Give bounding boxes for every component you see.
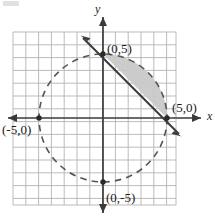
- point-label-top: (0,5): [107, 42, 132, 55]
- y-axis-label: y: [95, 3, 100, 15]
- point-5-0: [164, 115, 169, 120]
- graph-figure: (0,5) (5,0) (-5,0) (0,-5) y x: [0, 0, 215, 216]
- point-0-5: [100, 51, 105, 56]
- point-0-neg5: [100, 179, 105, 184]
- point-neg5-0: [36, 115, 41, 120]
- point-label-right: (5,0): [172, 101, 197, 114]
- point-label-left: (-5,0): [2, 123, 31, 136]
- x-axis-label: x: [207, 110, 212, 122]
- point-label-bottom: (0,-5): [106, 191, 135, 204]
